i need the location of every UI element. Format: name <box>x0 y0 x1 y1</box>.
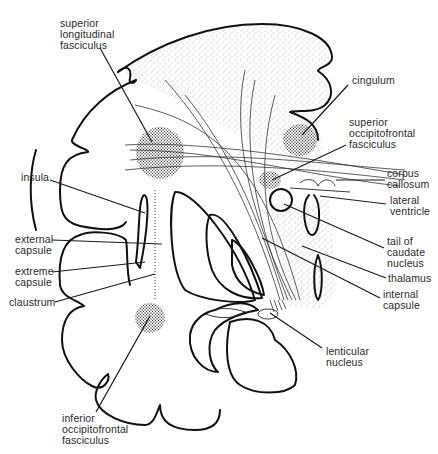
superior-longitudinal-fasciculus-region <box>136 127 184 179</box>
claustrum-shape <box>136 195 147 268</box>
superior-occipitofrontal-region <box>259 171 281 189</box>
label-inferior-occipitofrontal-fasciculus: inferior occipitofrontal fasciculus <box>62 413 128 446</box>
label-claustrum: claustrum <box>9 297 55 308</box>
label-lenticular-nucleus: lenticular nucleus <box>326 346 369 368</box>
label-insula: insula <box>21 172 49 183</box>
label-tail-of-caudate-nucleus: tail of caudate nucleus <box>387 236 425 269</box>
brain-coronal-section-diagram <box>0 0 438 454</box>
label-cingulum: cingulum <box>352 75 395 86</box>
label-corpus-callosum: corpus callosum <box>387 168 429 190</box>
label-internal-capsule: internal capsule <box>383 289 420 311</box>
label-lateral-ventricle: lateral ventricle <box>390 195 430 217</box>
label-superior-longitudinal-fasciculus: superior longitudinal fasciculus <box>60 18 114 51</box>
label-thalamus: thalamus <box>388 273 431 284</box>
label-extreme-capsule: extreme capsule <box>15 266 54 288</box>
cingulum-region <box>283 124 317 156</box>
label-superior-occipitofrontal-fasciculus: superior occipitofrontal fasciculus <box>349 117 415 150</box>
lenticular-nucleus-shape <box>171 192 264 302</box>
inferior-occipitofrontal-region <box>135 303 165 333</box>
label-external-capsule: external capsule <box>15 234 53 256</box>
